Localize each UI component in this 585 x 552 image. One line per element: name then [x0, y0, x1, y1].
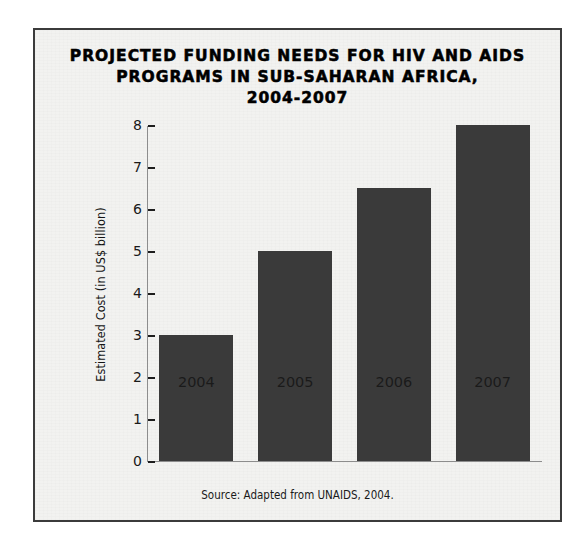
y-tick-mark [148, 209, 155, 211]
bar-2006 [357, 188, 431, 461]
y-tick-mark [148, 461, 155, 463]
y-tick-label: 7 [112, 158, 142, 176]
x-axis-label-2007: 2007 [445, 374, 541, 390]
y-axis-title: Estimated Cost (in US$ billion) [91, 126, 109, 462]
chart-title-line-a: PROJECTED FUNDING NEEDS FOR HIV AND AIDS [35, 46, 560, 67]
y-tick-label: 4 [112, 284, 142, 302]
chart-title-line-b: PROGRAMS IN SUB-SAHARAN AFRICA, [35, 67, 560, 88]
y-tick-label: 1 [112, 410, 142, 428]
bar-2005 [258, 251, 332, 461]
y-tick-mark [148, 419, 155, 421]
y-tick-label: 2 [112, 368, 142, 386]
chart-title: PROJECTED FUNDING NEEDS FOR HIV AND AIDS… [35, 46, 560, 109]
y-tick-mark [148, 293, 155, 295]
figure-frame: PROJECTED FUNDING NEEDS FOR HIV AND AIDS… [33, 28, 562, 522]
x-axis-label-2004: 2004 [148, 374, 244, 390]
bar-2004 [159, 335, 233, 461]
y-tick-label: 6 [112, 200, 142, 218]
x-axis-line [147, 461, 542, 462]
y-tick-label: 3 [112, 326, 142, 344]
y-tick-label: 0 [112, 452, 142, 470]
y-axis-title-label: Estimated Cost (in US$ billion) [93, 207, 108, 381]
x-axis-label-2005: 2005 [247, 374, 343, 390]
x-axis-label-2006: 2006 [346, 374, 442, 390]
y-tick-mark [148, 335, 155, 337]
source-note: Source: Adapted from UNAIDS, 2004. [35, 488, 560, 502]
y-tick-mark [148, 251, 155, 253]
y-tick-mark [148, 125, 155, 127]
chart-title-line-c: 2004-2007 [35, 88, 560, 109]
y-tick-label: 5 [112, 242, 142, 260]
y-tick-label: 8 [112, 116, 142, 134]
bar-2007 [456, 125, 530, 461]
y-tick-mark [148, 167, 155, 169]
plot-area: 012345678 [147, 126, 542, 462]
